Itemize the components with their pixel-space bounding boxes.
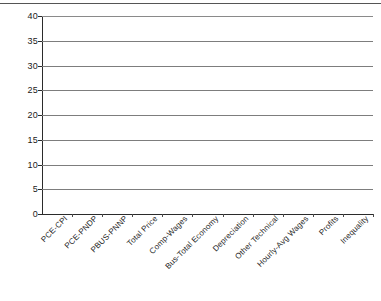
x-label-profits: Profits [317,214,340,237]
x-label-inequality: Inequality [339,214,371,246]
y-tick-label-35: 35 [28,37,38,46]
x-label-pce-cpi: PCE-CPI [39,214,69,244]
y-tick-label-25: 25 [28,86,38,95]
y-tick-label-20: 20 [28,111,38,120]
x-label-bus-total-economy: Bus-Total Economy [163,214,220,271]
y-tick-label-10: 10 [28,161,38,170]
page-top-rule [0,3,381,4]
bar-series [42,16,373,214]
plot-area [42,16,373,214]
y-tick-label-40: 40 [28,12,38,21]
x-axis-category-labels: PCE-CPIPCE-PNDPPBUS-PNNPTotal PriceComp-… [42,214,381,301]
y-tick-label-15: 15 [28,136,38,145]
chart-page: 0510152025303540 PCE-CPIPCE-PNDPPBUS-PNN… [0,0,381,301]
x-label-hourly-avg-wages: Hourly-Avg Wages [255,214,310,269]
y-tick-label-30: 30 [28,62,38,71]
y-axis-tick-labels: 0510152025303540 [0,16,38,214]
